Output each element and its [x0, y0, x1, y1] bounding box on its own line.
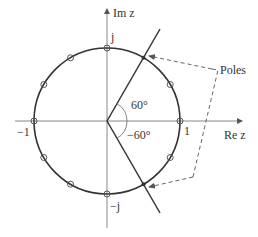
tick-neg-imag: −j	[110, 199, 120, 213]
poles-label: Poles	[220, 63, 246, 77]
pole-marker-upper	[142, 56, 146, 60]
angle-arc-60	[117, 104, 127, 121]
angle-label-60: 60°	[131, 98, 148, 112]
real-axis-label: Re z	[224, 128, 246, 142]
tick-neg-real: −1	[17, 125, 30, 139]
angle-arc-minus-60	[117, 121, 127, 138]
z-plane-diagram: Im z Re z j −j 1 −1 60° −60° Poles	[0, 0, 258, 237]
angle-label-minus-60: −60°	[127, 128, 151, 142]
imag-axis-label: Im z	[113, 6, 135, 20]
pole-marker-lower	[142, 182, 146, 186]
tick-pos-imag: j	[110, 30, 114, 44]
tick-pos-real: 1	[184, 124, 190, 138]
